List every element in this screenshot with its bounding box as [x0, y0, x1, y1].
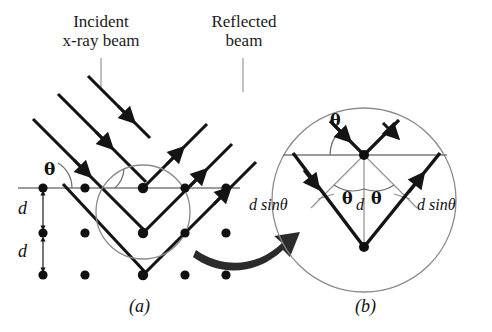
spacing-label-2: d [18, 241, 27, 261]
theta-label-b-left: θ [342, 190, 353, 208]
atom [221, 228, 230, 237]
incident-arrowhead-2 [96, 132, 108, 144]
atom [80, 270, 89, 279]
atom [180, 228, 189, 237]
upper-plane-atom [359, 150, 369, 160]
incident-beam-caption: Incident x-ray beam [46, 12, 156, 50]
reflected-beam-caption-line1: Reflected [192, 12, 296, 31]
atom [38, 270, 47, 279]
atom [138, 183, 148, 193]
atom [80, 183, 89, 192]
incident-arrowhead-1 [74, 160, 86, 172]
theta-label-a: θ [44, 160, 55, 179]
upper-reflected-ray [364, 120, 399, 155]
reflected-beam-caption: Reflected beam [192, 12, 296, 50]
incident-arrowhead-3 [118, 106, 130, 118]
atom-lattice [38, 183, 230, 280]
spacing-label-1: d [18, 198, 27, 218]
reflected-arrowhead-1 [167, 152, 179, 164]
atom [38, 228, 47, 237]
panel-a-group [18, 58, 300, 280]
bragg-diffraction-figure: Incident x-ray beam Reflected beam θ d d… [0, 0, 492, 332]
atom [180, 270, 189, 279]
incident-beam-caption-line1: Incident [46, 12, 156, 31]
magnify-pointer-arrow [193, 232, 300, 270]
theta-label-b-right: θ [371, 190, 382, 208]
incident-ray-deep [63, 184, 145, 272]
path-difference-label-right: d sinθ [417, 196, 456, 214]
lower-plane-atom [359, 242, 369, 252]
panel-b-label: (b) [355, 296, 376, 316]
theta-arc-top [330, 131, 340, 155]
atom [221, 183, 230, 192]
lower-reflected-arrowhead [409, 178, 420, 192]
reflected-arrowhead-3 [214, 192, 226, 204]
atom [221, 270, 230, 279]
interplanar-spacing-label: d [356, 196, 364, 214]
panel-a-label: (a) [129, 296, 150, 316]
atom [38, 183, 47, 192]
atom [180, 183, 189, 192]
reflected-beam-caption-line2: beam [192, 31, 296, 50]
atom [138, 228, 148, 238]
reflected-arrowhead-2 [190, 174, 202, 186]
atom [80, 228, 89, 237]
theta-label-b-top: θ [330, 112, 341, 130]
path-difference-label-left: d sinθ [249, 196, 288, 214]
incident-beam-caption-line2: x-ray beam [46, 31, 156, 50]
atom [138, 270, 148, 280]
lower-incident-ray [293, 153, 364, 247]
